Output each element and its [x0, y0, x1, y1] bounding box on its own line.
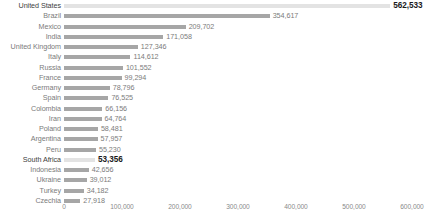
- value-label: 99,294: [125, 73, 147, 83]
- bar: [64, 35, 163, 39]
- category-label: Ukraine: [0, 175, 61, 185]
- value-label: 42,656: [92, 165, 114, 175]
- bar-row: Mexico209,702: [0, 22, 429, 32]
- value-label: 34,182: [87, 186, 109, 196]
- value-label: 57,957: [101, 134, 123, 144]
- bar: [64, 55, 130, 59]
- category-label: Indonesia: [0, 165, 61, 175]
- bar: [64, 4, 390, 8]
- bar: [64, 158, 95, 162]
- bar-row: Spain76,525: [0, 93, 429, 103]
- category-label: France: [0, 73, 61, 83]
- value-label: 114,612: [133, 52, 158, 62]
- bar: [64, 127, 98, 131]
- bar: [64, 14, 270, 18]
- category-label: Russia: [0, 63, 61, 73]
- bar: [64, 86, 110, 90]
- category-label: Turkey: [0, 186, 61, 196]
- value-label: 78,796: [113, 83, 135, 93]
- x-axis-tick-label: 600,000: [400, 203, 424, 210]
- bar: [64, 66, 123, 70]
- bar-row: Germany78,796: [0, 83, 429, 93]
- category-label: Iran: [0, 114, 61, 124]
- bar: [64, 148, 96, 152]
- category-label: Poland: [0, 124, 61, 134]
- x-axis-tick-label: 0: [62, 203, 66, 210]
- value-label: 39,012: [90, 175, 112, 185]
- bar-row: Turkey34,182: [0, 186, 429, 196]
- category-label: United States: [0, 1, 61, 11]
- bar: [64, 137, 98, 141]
- bar-row: Russia101,552: [0, 63, 429, 73]
- value-label: 101,552: [126, 63, 152, 73]
- bar-row: Indonesia42,656: [0, 165, 429, 175]
- x-axis: 0100,000200,000300,000400,000500,000600,…: [0, 200, 429, 219]
- bar: [64, 45, 138, 49]
- bar-row: Argentina57,957: [0, 134, 429, 144]
- bar: [64, 76, 122, 80]
- bar-row: India171,058: [0, 32, 429, 42]
- value-label: 58,481: [101, 124, 123, 134]
- category-label: Argentina: [0, 134, 61, 144]
- bar-row: Brazil354,617: [0, 11, 429, 21]
- category-label: Italy: [0, 52, 61, 62]
- bar: [64, 25, 186, 29]
- bar-row: United States562,533: [0, 1, 429, 11]
- x-axis-tick-label: 200,000: [168, 203, 192, 210]
- x-axis-tick-label: 100,000: [110, 203, 134, 210]
- bar-row: Poland58,481: [0, 124, 429, 134]
- bar-row: United Kingdom127,346: [0, 42, 429, 52]
- bar-chart: United States562,533Brazil354,617Mexico2…: [0, 0, 429, 219]
- bar: [64, 96, 108, 100]
- bar-row: Peru55,230: [0, 145, 429, 155]
- bar: [64, 117, 102, 121]
- category-label: India: [0, 32, 61, 42]
- value-label: 127,346: [141, 42, 167, 52]
- bar-row: Colombia66,156: [0, 104, 429, 114]
- category-label: South Africa: [0, 155, 61, 165]
- value-label: 562,533: [393, 1, 422, 11]
- category-label: Colombia: [0, 104, 61, 114]
- category-label: Spain: [0, 93, 61, 103]
- x-axis-tick-label: 500,000: [342, 203, 366, 210]
- value-label: 354,617: [273, 11, 299, 21]
- bar-row: Ukraine39,012: [0, 175, 429, 185]
- x-axis-tick-label: 400,000: [284, 203, 308, 210]
- bar-row: Iran64,764: [0, 114, 429, 124]
- value-label: 171,058: [166, 32, 192, 42]
- x-axis-tick-label: 300,000: [226, 203, 250, 210]
- value-label: 64,764: [105, 114, 127, 124]
- bar-row: South Africa53,356: [0, 155, 429, 165]
- category-label: Peru: [0, 145, 61, 155]
- category-label: Mexico: [0, 22, 61, 32]
- bar: [64, 168, 89, 172]
- bar: [64, 178, 87, 182]
- value-label: 76,525: [111, 93, 133, 103]
- bar: [64, 107, 102, 111]
- value-label: 66,156: [105, 104, 127, 114]
- bar-row: Italy114,612: [0, 52, 429, 62]
- category-label: United Kingdom: [0, 42, 61, 52]
- value-label: 55,230: [99, 145, 121, 155]
- category-label: Brazil: [0, 11, 61, 21]
- value-label: 209,702: [189, 22, 215, 32]
- chart-plot-area: United States562,533Brazil354,617Mexico2…: [0, 0, 429, 200]
- value-label: 53,356: [98, 155, 123, 165]
- bar-row: France99,294: [0, 73, 429, 83]
- category-label: Germany: [0, 83, 61, 93]
- bar: [64, 189, 84, 193]
